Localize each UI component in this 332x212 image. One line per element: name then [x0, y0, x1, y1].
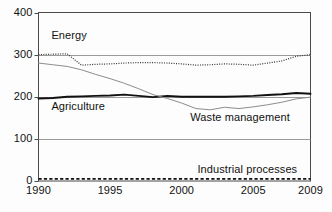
x-tick-label-2000: 2000 — [162, 184, 202, 196]
x-tick-label-2005: 2005 — [233, 184, 273, 196]
y-tick-label-100: 100 — [1, 132, 33, 144]
annotation-waste-management: Waste management — [190, 111, 290, 123]
speck-artifact — [83, 35, 85, 38]
chart-plot-svg — [0, 0, 332, 212]
y-tick-label-300: 300 — [1, 48, 33, 60]
y-tick-label-400: 400 — [1, 6, 33, 18]
gridlines — [39, 56, 311, 140]
x-tick-label-1990: 1990 — [19, 184, 59, 196]
annotation-industrial-processes: Industrial processes — [197, 163, 297, 175]
x-tick-label-1995: 1995 — [90, 184, 130, 196]
annotation-agriculture: Agriculture — [51, 100, 105, 112]
emissions-by-sector-line-chart: 4003002001000 19901995200020052009 Energ… — [0, 0, 332, 212]
x-tick-label-2009: 2009 — [291, 184, 331, 196]
y-tick-label-200: 200 — [1, 90, 33, 102]
annotation-energy: Energy — [51, 29, 86, 41]
axis-tick-marks — [35, 14, 39, 182]
